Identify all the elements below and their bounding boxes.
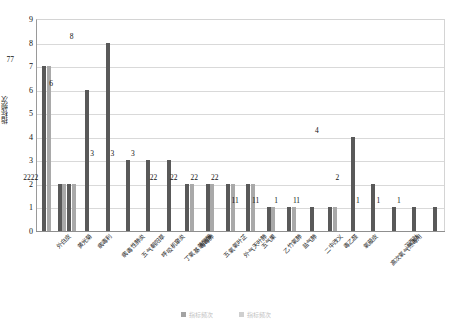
bar-value-label: 77: [6, 56, 14, 64]
bar: [106, 43, 110, 231]
legend-label: 指标频次: [189, 310, 213, 319]
bar-value-label: 1: [397, 197, 401, 205]
bar: [58, 184, 62, 231]
bar: [292, 207, 296, 231]
bar: [226, 184, 230, 231]
bar: [210, 184, 214, 231]
bar: [371, 184, 375, 231]
bar: [42, 66, 46, 231]
bar-value-label: 22: [170, 174, 178, 182]
bar-value-label: 3: [131, 150, 135, 158]
bar: [310, 207, 314, 231]
y-tick-label: 6: [29, 85, 33, 94]
bar: [146, 160, 150, 231]
x-axis-label: 毒毒肺: [199, 233, 216, 250]
bar-value-label: 2: [336, 174, 340, 182]
bar-value-label: 8: [70, 33, 74, 41]
bar-value-label: 11: [293, 197, 300, 205]
y-tick-label: 5: [29, 109, 33, 118]
bar: [433, 207, 437, 231]
bar-value-label: 2222: [23, 174, 38, 182]
y-axis-title: 指标频次: [1, 96, 13, 124]
bar-value-label: 1: [274, 197, 278, 205]
y-tick-label: 0: [29, 227, 33, 236]
bar-value-label: 3: [90, 150, 94, 158]
chart-legend: 指标频次指标频次: [0, 310, 451, 319]
bar-value-label: 22: [191, 174, 199, 182]
bar: [392, 207, 396, 231]
legend-item: 指标频次: [239, 310, 271, 319]
bar: [72, 184, 76, 231]
bar: [67, 184, 71, 231]
y-tick-label: 9: [29, 15, 33, 24]
bar: [85, 90, 89, 231]
legend-swatch: [181, 312, 186, 317]
bar-value-label: 6: [49, 80, 53, 88]
bar: [206, 184, 210, 231]
bar: [47, 66, 51, 231]
bar-value-label: 22: [150, 174, 158, 182]
bar: [251, 184, 255, 231]
x-axis-label: 外白皮: [55, 233, 72, 250]
bars-layer: [36, 19, 445, 231]
x-axis-label: 乙竹氧肺: [282, 233, 304, 255]
bar-value-label: 1: [356, 197, 360, 205]
bar: [351, 137, 355, 231]
bar: [246, 184, 250, 231]
bar: [62, 184, 66, 231]
x-axis-label: 盐气肺: [301, 233, 318, 250]
y-axis-ticks: 0123456789: [14, 0, 36, 245]
bar-value-label: 4: [315, 127, 319, 135]
bar: [412, 207, 416, 231]
x-axis-labels: 外白皮黄光菊病毒利病毒性肺炎五气朝阳草呼吸机窜炎丁氧基黄酮醇毒毒肺五氧氧叶芷外气…: [36, 233, 445, 319]
bar-value-label: 1: [376, 197, 380, 205]
bar: [328, 207, 332, 231]
bar: [271, 207, 275, 231]
legend-item: 指标频次: [181, 310, 213, 319]
y-tick-label: 4: [29, 132, 33, 141]
y-tick-label: 8: [29, 38, 33, 47]
bar: [190, 184, 194, 231]
x-axis-line: [36, 231, 445, 232]
bar-value-label: 11: [232, 197, 239, 205]
bar-value-label: 22: [211, 174, 219, 182]
bar: [167, 160, 171, 231]
legend-swatch: [239, 312, 244, 317]
bar: [185, 184, 189, 231]
y-tick-label: 7: [29, 62, 33, 71]
bar-chart: 指标频次 0123456789 外白皮黄光菊病毒利病毒性肺炎五气朝阳草呼吸机窜炎…: [0, 0, 451, 319]
bar-value-label: 3: [111, 150, 115, 158]
bar: [267, 207, 271, 231]
bar: [126, 160, 130, 231]
x-axis-label: 病毒利: [96, 233, 113, 250]
x-axis-label: 毒乙醛: [342, 233, 359, 250]
bar-value-label: 11: [252, 197, 259, 205]
bar: [333, 207, 337, 231]
bar: [231, 184, 235, 231]
x-axis-label: 二中改义: [323, 233, 345, 255]
bar: [287, 207, 291, 231]
x-axis-label: 氧蔽皮: [362, 233, 379, 250]
y-tick-label: 3: [29, 156, 33, 165]
legend-label: 指标频次: [247, 310, 271, 319]
x-axis-label: 黄光菊: [76, 233, 93, 250]
y-tick-label: 1: [29, 203, 33, 212]
